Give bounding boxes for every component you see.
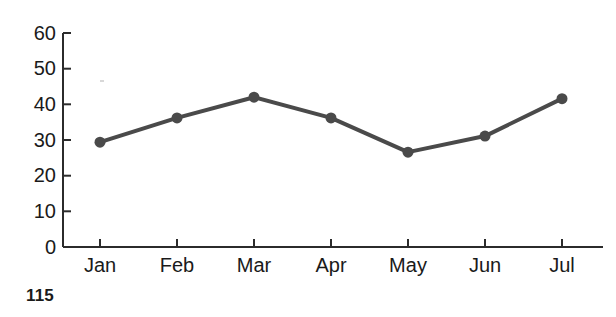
y-tick-label-40: 40 <box>34 93 56 115</box>
y-tick-label-20: 20 <box>34 164 56 186</box>
page-number: 115 <box>26 286 54 306</box>
data-point-feb <box>172 112 183 123</box>
x-axis-tick-labels: Jan Feb Mar Apr May Jun Jul <box>84 254 575 276</box>
y-axis-tick-labels: 60 50 40 30 20 10 0 <box>34 22 56 258</box>
data-point-may <box>403 147 414 158</box>
series-line <box>100 97 562 152</box>
y-tick-label-30: 30 <box>34 129 56 151</box>
data-point-jun <box>480 131 491 142</box>
data-point-mar <box>249 92 260 103</box>
x-tick-label-may: May <box>389 254 427 276</box>
chart-svg: 60 50 40 30 20 10 0 <box>0 0 616 280</box>
data-point-apr <box>326 112 337 123</box>
y-tick-label-0: 0 <box>45 236 56 258</box>
x-tick-label-apr: Apr <box>315 254 346 276</box>
y-tick-label-50: 50 <box>34 57 56 79</box>
series-markers <box>95 92 568 158</box>
data-point-jul <box>557 93 568 104</box>
x-axis-tick-marks <box>100 239 562 247</box>
chart-page: 60 50 40 30 20 10 0 <box>0 0 616 317</box>
line-chart-figure: 60 50 40 30 20 10 0 <box>0 0 616 280</box>
x-tick-label-jul: Jul <box>549 254 575 276</box>
x-tick-label-jun: Jun <box>469 254 501 276</box>
y-axis-tick-marks <box>63 33 71 211</box>
y-tick-label-10: 10 <box>34 200 56 222</box>
x-tick-label-jan: Jan <box>84 254 116 276</box>
data-point-jan <box>95 137 106 148</box>
y-tick-label-60: 60 <box>34 22 56 44</box>
x-tick-label-mar: Mar <box>237 254 272 276</box>
x-tick-label-feb: Feb <box>160 254 194 276</box>
scan-speck <box>100 80 104 82</box>
